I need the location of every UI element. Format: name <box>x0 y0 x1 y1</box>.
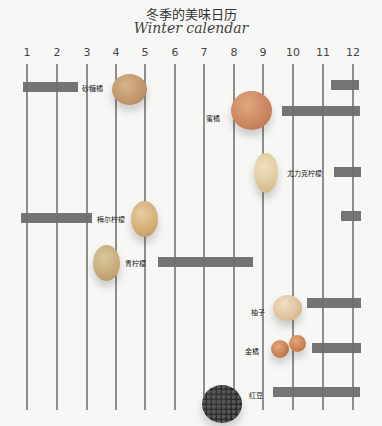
month-label-8: 8 <box>224 46 244 59</box>
grid-line <box>26 64 28 410</box>
eureka-lemon-image <box>254 153 278 193</box>
kumquat-image-1 <box>271 340 289 358</box>
grid-line <box>56 64 58 410</box>
month-label-4: 4 <box>106 46 126 59</box>
bar-honey-orange-short <box>331 80 359 90</box>
label-honey-orange: 蜜橘 <box>206 113 220 123</box>
bar-sugar-orange <box>23 82 78 92</box>
bar-meyer-lemon-end <box>341 211 361 221</box>
grid-line <box>203 64 205 410</box>
grid-line <box>86 64 88 410</box>
month-label-3: 3 <box>77 46 97 59</box>
yuzu-image <box>273 295 302 321</box>
bar-red-bean <box>273 387 360 397</box>
month-label-1: 1 <box>17 46 37 59</box>
month-label-5: 5 <box>135 46 155 59</box>
green-lemon-image <box>93 245 120 281</box>
grid-line <box>115 64 117 410</box>
label-eureka-lemon: 尤力克柠檬 <box>287 168 322 178</box>
label-red-bean: 红豆 <box>249 390 263 400</box>
label-meyer-lemon: 梅尔柠檬 <box>97 214 125 224</box>
label-yuzu: 柚子 <box>251 307 265 317</box>
label-kumquat: 金橘 <box>245 346 259 356</box>
bar-green-lemon <box>158 257 253 267</box>
kumquat-image-2 <box>289 335 306 352</box>
month-label-7: 7 <box>194 46 214 59</box>
bar-yuzu <box>307 298 361 308</box>
title-en: Winter calendar <box>0 20 382 36</box>
month-label-12: 12 <box>343 46 363 59</box>
meyer-lemon-image <box>131 201 158 237</box>
month-label-11: 11 <box>313 46 333 59</box>
label-green-lemon: 青柠檬 <box>125 258 146 268</box>
grid-line <box>174 64 176 410</box>
honey-orange-image <box>231 91 272 130</box>
bar-honey-orange <box>282 106 360 116</box>
grid-line <box>144 64 146 410</box>
month-label-6: 6 <box>165 46 185 59</box>
bar-eureka-lemon <box>334 167 361 177</box>
month-label-2: 2 <box>47 46 67 59</box>
month-label-10: 10 <box>283 46 303 59</box>
month-label-9: 9 <box>253 46 273 59</box>
bar-kumquat <box>312 343 361 353</box>
red-bean-image <box>202 385 242 423</box>
bar-meyer-lemon <box>21 213 92 223</box>
sugar-orange-image <box>112 74 147 105</box>
label-sugar-orange: 砂糖橘 <box>82 83 103 93</box>
